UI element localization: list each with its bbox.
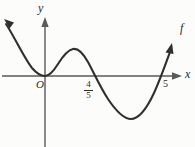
x-axis-label: x: [185, 68, 190, 80]
x-axis-arrowhead: [172, 72, 182, 80]
fraction-denominator: 5: [86, 91, 91, 100]
fraction-numerator: 4: [86, 80, 91, 89]
x-intercept-four-fifths-label: 4 5: [84, 80, 93, 101]
graph-canvas: [0, 0, 195, 147]
y-axis-label: y: [38, 2, 43, 14]
origin-label: O: [36, 79, 44, 90]
x-intercept-five-label: 5: [163, 79, 168, 89]
function-curve: [6, 24, 170, 119]
curve-right-arrowhead: [166, 43, 174, 54]
graph-figure: y x f O 4 5 5: [0, 0, 195, 147]
function-label: f: [180, 22, 183, 34]
y-axis-arrowhead: [41, 17, 48, 27]
